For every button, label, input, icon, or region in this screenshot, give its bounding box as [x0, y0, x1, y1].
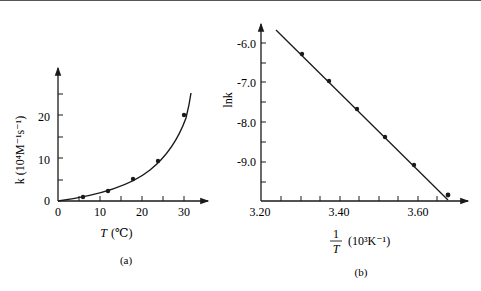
chart-a-y-title: k (10⁴M⁻¹s⁻¹) — [13, 116, 27, 184]
chart-b-ytick-8: -8.0 — [237, 116, 256, 130]
chart-b-points — [300, 52, 451, 198]
chart-b-y-title: lnk — [221, 92, 235, 107]
chart-a-caption: (a) — [120, 254, 133, 267]
chart-a: 0 10 20 0 10 20 30 T (℃) k (10⁴M⁻¹s⁻¹) (… — [13, 68, 208, 267]
figure: 0 10 20 0 10 20 30 T (℃) k (10⁴M⁻¹s⁻¹) (… — [0, 0, 481, 291]
chart-b-x-title-den: T — [333, 242, 341, 256]
chart-b-ytick-6: -6.0 — [237, 37, 256, 51]
chart-a-xtick-20: 20 — [136, 205, 148, 219]
chart-a-fit-curve — [58, 93, 191, 201]
chart-b-ytick-9: -9.0 — [237, 155, 256, 169]
chart-b-x-ticks — [281, 196, 437, 201]
chart-b-y-ticks — [261, 43, 266, 182]
chart-b-caption: (b) — [355, 266, 368, 279]
chart-a-x-title-unit: (℃) — [111, 226, 132, 240]
chart-a-ytick-10: 10 — [38, 153, 50, 167]
chart-a-y-ticks — [58, 94, 63, 180]
chart-a-x-title-var: T — [100, 226, 108, 240]
chart-a-ytick-20: 20 — [38, 110, 50, 124]
chart-b-xtick-320: 3.20 — [250, 205, 271, 219]
chart-b: -6.0 -7.0 -8.0 -9.0 3.20 3.40 3.60 1 T (… — [221, 24, 468, 279]
chart-b-xtick-340: 3.40 — [329, 205, 350, 219]
chart-a-xtick-10: 10 — [94, 205, 106, 219]
chart-b-xtick-360: 3.60 — [408, 205, 429, 219]
chart-b-x-title-unit: (10³K⁻¹) — [348, 234, 390, 248]
chart-a-points — [81, 113, 186, 199]
chart-a-xtick-0: 0 — [55, 205, 61, 219]
chart-a-xtick-30: 30 — [178, 205, 190, 219]
chart-b-ytick-7: -7.0 — [237, 76, 256, 90]
chart-b-x-title-num: 1 — [333, 227, 339, 241]
chart-a-ytick-0: 0 — [44, 194, 50, 208]
chart-a-x-ticks — [79, 196, 184, 201]
